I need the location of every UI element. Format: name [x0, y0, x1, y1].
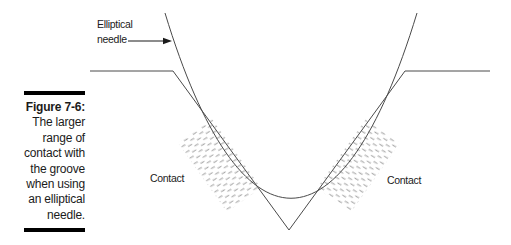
arrowhead-icon: [163, 38, 172, 44]
contact-label-right: Contact: [387, 174, 421, 186]
groove-outline: [90, 71, 490, 230]
needle-label-line1: Elliptical: [97, 18, 133, 30]
contact-hatch-right: [317, 119, 400, 212]
diagram-canvas: Elliptical needle Contact Contact: [0, 0, 511, 245]
contact-hatch-left: [178, 119, 261, 212]
needle-label-line2: needle: [97, 33, 127, 45]
contact-label-left: Contact: [150, 172, 184, 184]
figure-7-6-page: Figure 7-6: The larger range of contact …: [0, 0, 511, 245]
